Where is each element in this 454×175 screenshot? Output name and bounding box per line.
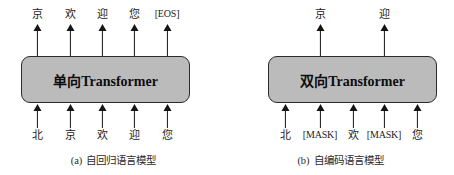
input-arrow-icon xyxy=(316,104,325,128)
panel-caption: (a)自回归语言模型 xyxy=(0,152,227,167)
input-token: 您 xyxy=(162,129,173,141)
caption-tag: (a) xyxy=(71,155,83,166)
output-arrow-icon xyxy=(316,24,325,56)
caption-text: 自编码语言模型 xyxy=(314,155,384,166)
output-token: 欢 xyxy=(65,8,76,20)
input-token: 北 xyxy=(280,129,291,141)
output-token-eos: [EOS] xyxy=(155,8,180,20)
output-token: 您 xyxy=(129,8,140,20)
caption-text: 自回归语言模型 xyxy=(86,155,156,166)
input-arrow-icon xyxy=(380,104,389,128)
input-arrow-icon xyxy=(130,104,139,128)
output-arrow-icon xyxy=(130,24,139,56)
input-token: 欢 xyxy=(348,129,359,141)
input-arrow-icon xyxy=(349,104,358,128)
panel-autoencoding: 京 迎 双向Transformer 北 [MASK] 欢 [MASK] 您 (b… xyxy=(227,0,454,175)
panel-autoregressive: 京 欢 迎 您 [EOS] 单向Transformer 北 京 欢 迎 您 (a… xyxy=(0,0,227,175)
input-arrow-icon xyxy=(33,104,42,128)
input-arrow-icon xyxy=(163,104,172,128)
caption-tag: (b) xyxy=(297,155,309,166)
output-arrow-icon xyxy=(163,24,172,56)
figure-container: 京 欢 迎 您 [EOS] 单向Transformer 北 京 欢 迎 您 (a… xyxy=(0,0,454,175)
input-token-mask: [MASK] xyxy=(367,129,401,141)
input-token: 迎 xyxy=(129,129,140,141)
panel-caption: (b)自编码语言模型 xyxy=(227,152,454,167)
bidirectional-transformer-box: 双向Transformer xyxy=(268,56,437,103)
output-token: 京 xyxy=(32,8,43,20)
input-token-mask: [MASK] xyxy=(303,129,337,141)
input-arrow-icon xyxy=(413,104,422,128)
output-arrow-icon xyxy=(98,24,107,56)
input-arrow-icon xyxy=(66,104,75,128)
transformer-box-label: 单向Transformer xyxy=(53,70,158,90)
output-token: 迎 xyxy=(97,8,108,20)
input-arrow-icon xyxy=(98,104,107,128)
input-arrow-icon xyxy=(281,104,290,128)
output-arrow-icon xyxy=(66,24,75,56)
input-token: 北 xyxy=(32,129,43,141)
unidirectional-transformer-box: 单向Transformer xyxy=(21,56,190,103)
input-token: 您 xyxy=(412,129,423,141)
input-token: 欢 xyxy=(97,129,108,141)
output-token: 迎 xyxy=(379,8,390,20)
transformer-box-label: 双向Transformer xyxy=(300,70,405,90)
output-arrow-icon xyxy=(380,24,389,56)
output-token: 京 xyxy=(315,8,326,20)
output-arrow-icon xyxy=(33,24,42,56)
input-token: 京 xyxy=(65,129,76,141)
